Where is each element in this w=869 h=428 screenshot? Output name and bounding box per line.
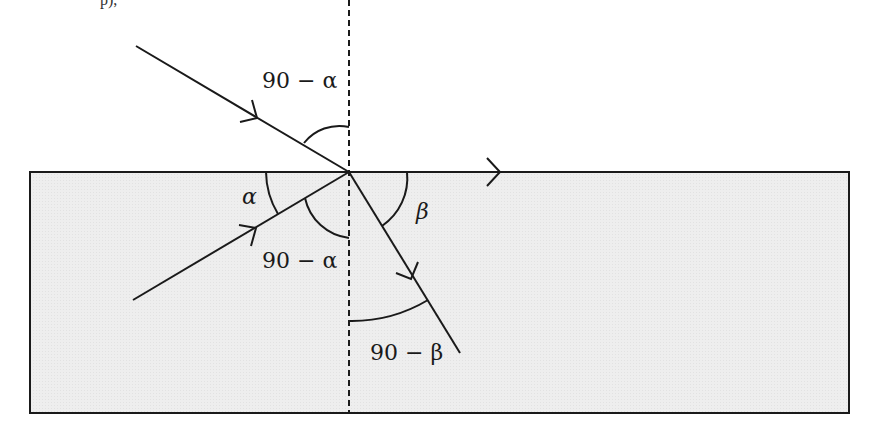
medium-box xyxy=(30,172,849,413)
refraction-diagram: 90 − α α 90 − α β 90 − β xyxy=(0,0,869,428)
label-alpha: α xyxy=(242,184,257,209)
incident-ray xyxy=(136,46,349,172)
label-upper-90-minus-alpha: 90 − α xyxy=(262,68,337,93)
label-beta: β xyxy=(415,199,429,224)
label-lower-90-minus-alpha: 90 − α xyxy=(262,248,337,273)
label-90-minus-beta: 90 − β xyxy=(370,340,443,365)
arrow-icon xyxy=(240,100,257,122)
